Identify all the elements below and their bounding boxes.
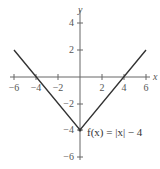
x-tick-label: −6 [9, 82, 20, 93]
x-tick-label: 4 [122, 82, 127, 93]
x-tick-label: −2 [53, 82, 64, 93]
function-label: f(x) = |x| − 4 [87, 126, 143, 139]
x-tick-label: 6 [144, 82, 149, 93]
function-graph: −6 −4 −2 2 4 6 4 2 −2 −4 −6 x y f(x) = |… [0, 0, 160, 169]
y-tick-label: 2 [69, 44, 74, 55]
y-tick-label: −4 [63, 124, 74, 135]
y-tick-label: −2 [63, 98, 74, 109]
vertex-point [78, 128, 81, 131]
y-tick-label: −6 [63, 151, 74, 162]
x-tick-label: −4 [31, 82, 42, 93]
x-tick-label: 2 [100, 82, 105, 93]
x-axis-label: x [152, 71, 158, 82]
y-axis-label: y [77, 4, 83, 15]
y-tick-label: 4 [69, 17, 74, 28]
